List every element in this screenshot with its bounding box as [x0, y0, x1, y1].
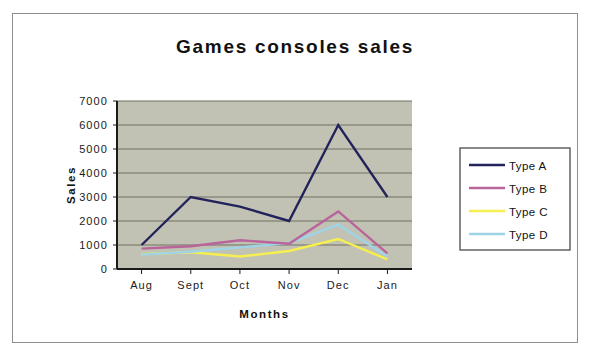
chart-page: Games consoles sales 7000600050004000300…	[0, 0, 602, 363]
y-tick-label: 4000	[79, 167, 108, 179]
y-tick-label: 6000	[79, 119, 108, 131]
legend-label-type-b: Type B	[509, 183, 547, 195]
x-tick-label: Sept	[177, 279, 204, 291]
legend-label-type-d: Type D	[509, 229, 548, 241]
x-tick-label: Jan	[377, 279, 398, 291]
y-tick-label: 7000	[79, 95, 108, 107]
x-tick-label: Dec	[327, 279, 350, 291]
y-tick-label: 3000	[79, 191, 108, 203]
x-tick-label: Nov	[278, 279, 301, 291]
x-tick-label: Aug	[130, 279, 153, 291]
y-axis-title: Sales	[65, 166, 77, 204]
y-tick-label: 2000	[79, 215, 108, 227]
y-tick-label: 5000	[79, 143, 108, 155]
y-tick-label: 1000	[79, 239, 108, 251]
x-tick-label: Oct	[230, 279, 250, 291]
legend-label-type-c: Type C	[509, 206, 548, 218]
y-tick-label: 0	[101, 263, 108, 275]
chart-frame: Games consoles sales 7000600050004000300…	[12, 13, 578, 343]
x-axis-title: Months	[239, 308, 289, 320]
line-chart: 70006000500040003000200010000AugSeptOctN…	[13, 14, 579, 344]
legend-label-type-a: Type A	[509, 160, 547, 172]
